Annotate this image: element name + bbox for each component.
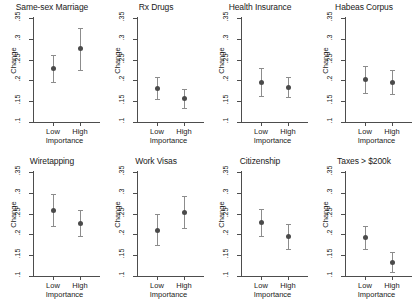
y-axis-tick: [29, 172, 33, 173]
x-axis-line: [133, 276, 204, 277]
ci-lower-cap: [286, 249, 291, 250]
y-axis-tick: [237, 60, 241, 61]
y-axis-tick: [133, 101, 137, 102]
data-point-marker: [182, 210, 187, 215]
y-axis-tick-label: .1: [118, 266, 125, 284]
y-axis-tick-label: .35: [118, 8, 125, 26]
y-axis-line: [345, 17, 346, 123]
x-axis-tick-label-high: High: [273, 127, 303, 136]
y-axis-tick: [133, 276, 137, 277]
data-point-marker: [259, 220, 264, 225]
y-axis-tick: [341, 255, 345, 256]
ci-upper-cap: [286, 224, 291, 225]
x-axis-tick-label-low: Low: [350, 281, 380, 290]
y-axis-line: [137, 171, 138, 277]
y-axis-line: [241, 17, 242, 123]
x-axis-tick-label-high: High: [169, 281, 199, 290]
x-axis-tick: [365, 276, 366, 280]
y-axis-tick-label: .35: [222, 162, 229, 180]
y-axis-tick: [133, 193, 137, 194]
ci-upper-cap: [390, 70, 395, 71]
y-axis-title: Change: [9, 39, 18, 83]
x-axis-title: Importance: [133, 290, 204, 299]
x-axis-tick: [392, 122, 393, 126]
ci-upper-cap: [78, 28, 83, 29]
x-axis-tick-label-low: Low: [38, 281, 68, 290]
x-axis-title: Importance: [341, 136, 412, 145]
y-axis-tick-label: .15: [14, 245, 21, 263]
x-axis-tick: [157, 276, 158, 280]
x-axis-tick-label-high: High: [377, 127, 407, 136]
data-point-marker: [286, 234, 291, 239]
x-axis-line: [133, 122, 204, 123]
y-axis-tick: [341, 18, 345, 19]
data-point-marker: [182, 96, 187, 101]
panel-citizenship: Citizenship.1.15.2.25.3.35ChangeLowHighI…: [208, 154, 312, 308]
x-axis-tick: [53, 122, 54, 126]
x-axis-tick-label-high: High: [377, 281, 407, 290]
ci-lower-cap: [78, 70, 83, 71]
ci-upper-cap: [259, 68, 264, 69]
y-axis-tick: [29, 60, 33, 61]
y-axis-tick: [237, 276, 241, 277]
data-point-marker: [390, 80, 395, 85]
data-point-marker: [259, 80, 264, 85]
ci-lower-cap: [78, 236, 83, 237]
x-axis-tick: [392, 276, 393, 280]
y-axis-tick-label: .1: [326, 266, 333, 284]
ci-lower-cap: [182, 228, 187, 229]
data-point-marker: [155, 86, 160, 91]
y-axis-tick: [341, 101, 345, 102]
y-axis-tick: [133, 80, 137, 81]
x-axis-title: Importance: [237, 290, 308, 299]
y-axis-tick-label: .35: [326, 8, 333, 26]
small-multiples-figure: Same-sex Marriage.1.15.2.25.3.35ChangeLo…: [0, 0, 417, 308]
data-point-marker: [78, 221, 83, 226]
y-axis-tick: [237, 39, 241, 40]
y-axis-tick: [341, 214, 345, 215]
y-axis-title: Change: [113, 193, 122, 237]
y-axis-tick: [133, 172, 137, 173]
y-axis-tick-label: .1: [14, 266, 21, 284]
y-axis-line: [241, 171, 242, 277]
x-axis-tick: [157, 122, 158, 126]
ci-lower-cap: [259, 236, 264, 237]
y-axis-tick: [237, 255, 241, 256]
y-axis-tick: [133, 39, 137, 40]
x-axis-tick: [53, 276, 54, 280]
y-axis-line: [137, 17, 138, 123]
y-axis-tick-label: .35: [14, 8, 21, 26]
x-axis-tick: [261, 122, 262, 126]
y-axis-title: Change: [217, 39, 226, 83]
y-axis-tick: [29, 255, 33, 256]
y-axis-tick-label: .1: [222, 266, 229, 284]
y-axis-title: Change: [321, 39, 330, 83]
y-axis-tick: [29, 101, 33, 102]
y-axis-tick-label: .15: [222, 245, 229, 263]
y-axis-tick-label: .1: [326, 112, 333, 130]
data-point-marker: [286, 85, 291, 90]
y-axis-tick: [133, 18, 137, 19]
y-axis-tick-label: .1: [14, 112, 21, 130]
data-point-marker: [51, 66, 56, 71]
x-axis-line: [341, 276, 412, 277]
y-axis-tick-label: .35: [222, 8, 229, 26]
y-axis-tick: [237, 193, 241, 194]
x-axis-line: [237, 276, 308, 277]
x-axis-tick: [288, 122, 289, 126]
y-axis-line: [33, 171, 34, 277]
y-axis-tick: [29, 39, 33, 40]
x-axis-line: [341, 122, 412, 123]
panel-taxes-200k: Taxes > $200k.1.15.2.25.3.35ChangeLowHig…: [312, 154, 416, 308]
y-axis-tick: [237, 122, 241, 123]
ci-upper-cap: [182, 196, 187, 197]
ci-upper-cap: [155, 77, 160, 78]
x-axis-tick: [365, 122, 366, 126]
ci-upper-cap: [51, 55, 56, 56]
ci-lower-cap: [155, 245, 160, 246]
x-axis-tick-label-high: High: [169, 127, 199, 136]
y-axis-tick: [237, 214, 241, 215]
x-axis-tick-label-low: Low: [142, 281, 172, 290]
x-axis-title: Importance: [29, 290, 100, 299]
y-axis-title: Change: [113, 39, 122, 83]
